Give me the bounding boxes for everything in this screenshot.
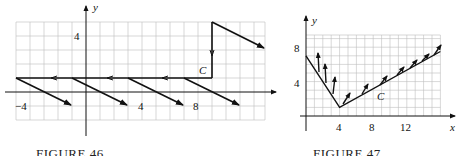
- y-axis-label-46: y: [92, 1, 98, 13]
- figure-46-caption: FIGURE 46: [36, 146, 104, 156]
- figure-47: y x 8 4 4 8 12 C: [294, 14, 455, 133]
- tick-label-y4-46: 4: [74, 30, 80, 42]
- figure-47-caption: FIGURE 47: [313, 146, 381, 156]
- diagram-canvas: y 4 −4 4 8 C: [0, 0, 459, 156]
- tick-label-x4-46: 4: [138, 100, 144, 112]
- tick-label-x4-47: 4: [336, 121, 342, 133]
- tick-label-y8-47: 8: [294, 42, 300, 54]
- tick-label-y4-47: 4: [294, 77, 300, 89]
- vector-field-46: [16, 22, 264, 105]
- y-axis-label-47: y: [311, 14, 317, 26]
- curve-direction-arrows-46: [51, 50, 214, 80]
- x-axis-label-47: x: [449, 121, 455, 133]
- curve-label-46: C: [199, 64, 207, 76]
- figure-46: y 4 −4 4 8 C: [5, 1, 276, 136]
- curve-label-47: C: [377, 90, 385, 102]
- tick-label-x8-46: 8: [193, 100, 199, 112]
- tick-label-x12-47: 12: [400, 121, 411, 133]
- tick-label-xm4-46: −4: [15, 100, 27, 112]
- tick-label-x8-47: 8: [369, 121, 375, 133]
